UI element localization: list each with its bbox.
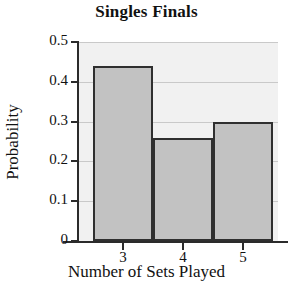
y-tick-label: 0.2 <box>28 151 68 168</box>
y-tick-mark <box>71 160 78 162</box>
y-tick-mark <box>71 240 78 242</box>
gridline <box>78 42 278 43</box>
chart-title: Singles Finals <box>0 2 293 22</box>
y-axis-title-container: Probability <box>2 42 24 241</box>
y-tick-label: 0.4 <box>28 72 68 89</box>
bar <box>213 122 273 241</box>
y-tick-label: 0.1 <box>28 191 68 208</box>
y-tick-label: 0.5 <box>28 32 68 49</box>
y-axis-line <box>77 41 79 242</box>
y-tick-mark <box>71 81 78 83</box>
y-tick-mark <box>71 200 78 202</box>
chart-figure: Singles Finals Probability 0.50.40.30.20… <box>0 0 293 282</box>
x-axis-line <box>63 241 288 243</box>
y-tick-label: 0.3 <box>28 112 68 129</box>
bar <box>153 138 213 241</box>
y-tick-mark <box>71 121 78 123</box>
y-tick-mark <box>71 41 78 43</box>
x-axis-title: Number of Sets Played <box>0 262 293 282</box>
y-axis-title: Probability <box>3 104 23 180</box>
y-tick-label: 0 <box>28 231 68 248</box>
bar <box>93 66 153 241</box>
